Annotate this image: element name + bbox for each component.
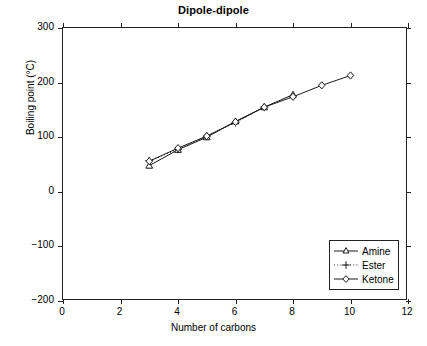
x-axis-tick (178, 299, 179, 304)
x-axis-tick (236, 299, 237, 304)
x-axis-tick-top (351, 23, 352, 28)
legend-swatch-amine (333, 245, 359, 257)
chart-legend: Amine Ester Ketone (329, 240, 399, 290)
y-axis-tick-right (406, 28, 411, 29)
legend-swatch-ester (333, 259, 359, 271)
legend-swatch-ketone (333, 273, 359, 285)
x-axis-tick (408, 299, 409, 304)
x-axis-title: Number of carbons (0, 322, 427, 333)
y-axis-tick (58, 137, 63, 138)
x-axis-tick-top (178, 23, 179, 28)
y-axis-tick-label: 100 (10, 131, 54, 141)
legend-label-ketone: Ketone (359, 274, 394, 285)
y-axis-tick (58, 28, 63, 29)
x-axis-tick (63, 299, 64, 304)
x-axis-tick (351, 299, 352, 304)
legend-item-amine: Amine (333, 244, 394, 258)
x-axis-tick-label: 4 (157, 307, 197, 317)
legend-label-ester: Ester (359, 260, 385, 271)
x-axis-tick-label: 10 (330, 307, 370, 317)
y-axis-tick-label: 0 (10, 186, 54, 196)
x-axis-tick-label: 12 (387, 307, 427, 317)
y-axis-tick-right (406, 137, 411, 138)
y-axis-tick (58, 246, 63, 247)
x-axis-tick-label: 0 (42, 307, 82, 317)
chart-figure: Dipole-dipole Boiling point (°C) Number … (0, 0, 427, 346)
y-axis-tick-label: 200 (10, 77, 54, 87)
y-axis-title: Boiling point (°C) (25, 18, 36, 178)
legend-item-ester: Ester (333, 258, 394, 272)
y-axis-tick-label: −200 (10, 295, 54, 305)
y-axis-tick-label: 300 (10, 22, 54, 32)
chart-title: Dipole-dipole (0, 4, 427, 16)
x-axis-tick-label: 6 (215, 307, 255, 317)
x-axis-tick-top (293, 23, 294, 28)
x-axis-tick-label: 2 (100, 307, 140, 317)
x-axis-tick (293, 299, 294, 304)
x-axis-tick-top (63, 23, 64, 28)
series-amine (146, 91, 297, 168)
y-axis-tick-right (406, 192, 411, 193)
y-axis-tick-right (406, 246, 411, 247)
legend-item-ketone: Ketone (333, 272, 394, 286)
legend-label-amine: Amine (359, 246, 390, 257)
y-axis-tick-label: −100 (10, 240, 54, 250)
y-axis-tick (58, 192, 63, 193)
series-ketone (146, 72, 354, 165)
x-axis-tick-top (121, 23, 122, 28)
y-axis-tick (58, 83, 63, 84)
y-axis-tick-right (406, 83, 411, 84)
x-axis-tick-label: 8 (272, 307, 312, 317)
x-axis-tick-top (408, 23, 409, 28)
x-axis-tick-top (236, 23, 237, 28)
x-axis-tick (121, 299, 122, 304)
